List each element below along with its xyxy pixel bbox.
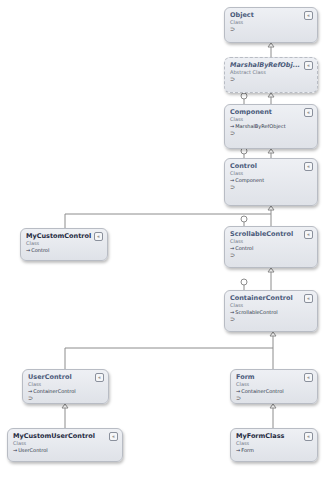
class-kind: Class (26, 240, 102, 247)
base-type: →Control (26, 247, 102, 254)
class-box-form[interactable]: Form Class →ContainerControl ⊃ « (230, 369, 318, 404)
class-name: MyFormClass (236, 432, 312, 440)
class-name: UserControl (28, 373, 103, 381)
class-name: MarshalByRefObj... (230, 61, 312, 69)
collapse-toggle-icon[interactable]: « (304, 61, 313, 70)
class-kind: Class (230, 170, 312, 177)
interface-lollipop-icon: ⊃ (230, 76, 312, 82)
interface-lollipop-icon: ⊃ (230, 316, 312, 322)
interface-lollipop-icon: ⊃ (230, 184, 312, 190)
inherits-arrow-icon: → (236, 447, 240, 453)
class-name: MyCustomControl (26, 232, 102, 240)
base-type: →UserControl (13, 447, 117, 454)
base-type: →ScrollableControl (230, 309, 312, 316)
class-kind: Class (230, 302, 312, 309)
base-type: →MarshalByRefObject (230, 123, 312, 130)
base-type: →Form (236, 447, 312, 454)
class-box-containercontrol[interactable]: ContainerControl Class →ScrollableContro… (224, 290, 318, 332)
interface-lollipop-icon: ⊃ (28, 395, 103, 401)
class-kind: Class (230, 238, 312, 245)
base-type: →ContainerControl (28, 388, 103, 395)
class-name: Object (230, 11, 312, 19)
class-kind: Class (28, 381, 103, 388)
class-kind: Class (236, 381, 312, 388)
base-type: →Control (230, 245, 312, 252)
class-box-mycustomusercontrol[interactable]: MyCustomUserControl Class →UserControl « (7, 428, 123, 462)
class-kind: Class (230, 116, 312, 123)
class-name: ContainerControl (230, 294, 312, 302)
class-kind: Class (230, 19, 312, 26)
class-kind: Abstract Class (230, 69, 312, 76)
interface-lollipop-icon: ⊃ (236, 395, 312, 401)
collapse-toggle-icon[interactable]: « (94, 232, 103, 241)
collapse-toggle-icon[interactable]: « (304, 373, 313, 382)
class-kind: Class (236, 440, 312, 447)
collapse-toggle-icon[interactable]: « (304, 11, 313, 20)
collapse-toggle-icon[interactable]: « (304, 294, 313, 303)
class-name: Form (236, 373, 312, 381)
collapse-toggle-icon[interactable]: « (304, 108, 313, 117)
class-name: Control (230, 162, 312, 170)
class-box-marshalbyrefobject[interactable]: MarshalByRefObj... Abstract Class ⊃ « (224, 57, 318, 93)
interface-lollipop-icon: ⊃ (230, 26, 312, 32)
class-kind: Class (13, 440, 117, 447)
collapse-toggle-icon[interactable]: « (109, 432, 118, 441)
inherits-arrow-icon: → (26, 247, 30, 253)
class-box-mycustomcontrol[interactable]: MyCustomControl Class →Control « (20, 228, 108, 261)
class-box-myformclass[interactable]: MyFormClass Class →Form « (230, 428, 318, 462)
class-box-scrollablecontrol[interactable]: ScrollableControl Class →Control ⊃ « (224, 226, 318, 268)
class-name: Component (230, 108, 312, 116)
class-box-control[interactable]: Control Class →Component ⊃ « (224, 158, 318, 206)
class-box-component[interactable]: Component Class →MarshalByRefObject ⊃ « (224, 104, 318, 149)
class-name: MyCustomUserControl (13, 432, 117, 440)
interface-lollipop-icon: ⊃ (230, 252, 312, 258)
collapse-toggle-icon[interactable]: « (95, 373, 104, 382)
class-box-object[interactable]: Object Class ⊃ « (224, 7, 318, 43)
class-box-usercontrol[interactable]: UserControl Class →ContainerControl ⊃ « (22, 369, 109, 404)
collapse-toggle-icon[interactable]: « (304, 432, 313, 441)
collapse-toggle-icon[interactable]: « (304, 162, 313, 171)
class-name: ScrollableControl (230, 230, 312, 238)
inherits-arrow-icon: → (13, 447, 17, 453)
base-type: →ContainerControl (236, 388, 312, 395)
collapse-toggle-icon[interactable]: « (304, 230, 313, 239)
interface-lollipop-icon: ⊃ (230, 130, 312, 136)
base-type: →Component (230, 177, 312, 184)
